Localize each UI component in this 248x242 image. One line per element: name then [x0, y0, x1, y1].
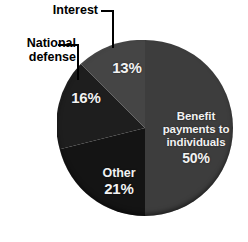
slice-label-other-text: Other — [103, 166, 136, 180]
leader-line-national-defense-vertical — [77, 44, 79, 80]
slice-value-other: 21% — [85, 181, 153, 198]
leader-line-national-defense-horizontal — [58, 44, 79, 46]
callout-label-interest: Interest — [28, 3, 98, 17]
slice-label-benefit-text: Benefit payments to individuals — [163, 110, 230, 148]
slice-value-national-defense: 16% — [64, 90, 108, 107]
pie-chart-figure: Benefit payments to individuals 50% 13% … — [0, 0, 248, 242]
slice-value-interest: 13% — [105, 60, 149, 77]
slice-label-other: Other 21% — [85, 152, 153, 212]
leader-line-interest-vertical — [112, 10, 114, 48]
slice-label-benefit-payments: Benefit payments to individuals 50% — [153, 97, 239, 179]
slice-value-benefit: 50% — [153, 151, 239, 167]
callout-label-national-defense: National defense — [2, 36, 76, 65]
